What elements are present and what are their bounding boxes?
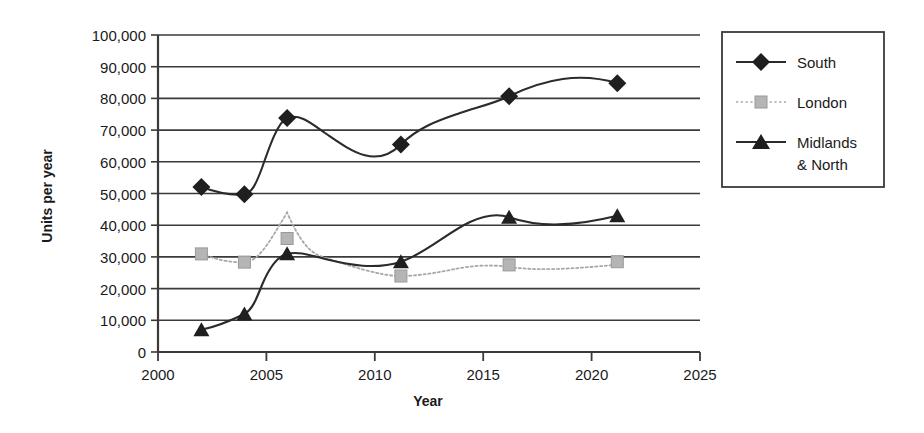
x-tick-label: 2000 [141,366,174,383]
x-tick-labels: 2000 2005 2010 2015 2020 2025 [141,366,716,383]
x-tick-label: 2005 [250,366,283,383]
y-tick-labels: 100,000 90,000 80,000 70,000 60,000 50,0… [92,27,146,361]
y-tick-label: 0 [138,344,146,361]
y-tick-label: 10,000 [100,312,146,329]
y-tick-label: 70,000 [100,122,146,139]
y-tick-label: 80,000 [100,90,146,107]
y-tick-label: 100,000 [92,27,146,44]
london-point-2004 [238,256,250,268]
x-tick-label: 2020 [575,366,608,383]
y-tick-label: 40,000 [100,217,146,234]
square-marker-icon [755,96,767,108]
y-tick-label: 60,000 [100,154,146,171]
y-tick-label: 20,000 [100,281,146,298]
london-point-2006 [281,233,293,245]
legend-label-south: South [797,54,836,71]
legend-label-london: London [797,94,847,111]
legend-label-midlands-line2: & North [797,156,848,173]
x-tick-label: 2025 [683,366,716,383]
chart-svg: 100,000 90,000 80,000 70,000 60,000 50,0… [0,0,924,433]
london-point-2002 [195,248,207,260]
london-point-2016 [503,259,515,271]
y-axis-title: Units per year [39,149,55,243]
y-tick-label: 90,000 [100,59,146,76]
y-tick-label: 50,000 [100,186,146,203]
x-axis-ticks [158,352,700,361]
london-point-2021 [611,256,623,268]
x-axis-title: Year [413,393,443,409]
legend-label-midlands: Midlands [797,134,857,151]
london-point-2011 [395,270,407,282]
chart-legend: South London Midlands & North [722,32,884,187]
y-tick-label: 30,000 [100,249,146,266]
line-chart: 100,000 90,000 80,000 70,000 60,000 50,0… [0,0,924,433]
x-tick-label: 2010 [358,366,391,383]
x-tick-label: 2015 [467,366,500,383]
